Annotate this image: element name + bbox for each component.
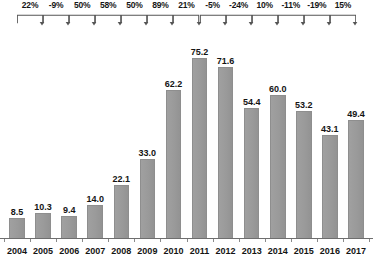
bar-rect xyxy=(218,67,234,238)
axis-tick xyxy=(4,239,5,242)
growth-label: 89% xyxy=(147,0,173,10)
axis-tick xyxy=(108,239,109,242)
axis-tick xyxy=(265,239,266,242)
axis-tick xyxy=(369,239,370,242)
bar-value-label: 60.0 xyxy=(263,84,293,94)
growth-bracket-2014-to-2015: -11% xyxy=(278,0,304,34)
growth-bracket-2013-to-2014: 10% xyxy=(252,0,278,34)
bracket-connector-icon xyxy=(95,14,121,25)
bar-2015[interactable]: 53.2 xyxy=(296,34,312,238)
year-label-2007: 2007 xyxy=(82,245,108,257)
growth-bracket-2008-to-2009: 50% xyxy=(121,0,147,34)
growth-bracket-2007-to-2008: 58% xyxy=(95,0,121,34)
bar-value-label: 22.1 xyxy=(107,174,137,184)
bar-value-label: 43.1 xyxy=(315,124,345,134)
bar-value-label: 54.4 xyxy=(237,97,267,107)
growth-bracket-2005-to-2006: -9% xyxy=(43,0,69,34)
bracket-connector-icon xyxy=(200,14,226,25)
bar-2017[interactable]: 49.4 xyxy=(348,34,364,238)
bracket-connector-icon xyxy=(330,14,356,25)
bar-value-label: 49.4 xyxy=(341,109,371,119)
year-label-2004: 2004 xyxy=(4,245,30,257)
bar-chart: 22%-9%50%58%50%89%21%-5%-24%10%-11%-19%1… xyxy=(0,0,373,267)
bar-2005[interactable]: 10.3 xyxy=(35,34,51,238)
bar-rect xyxy=(296,111,312,238)
bar-2012[interactable]: 71.6 xyxy=(218,34,234,238)
growth-bracket-2004-to-2005: 22% xyxy=(17,0,43,34)
growth-bracket-2016-to-2017: 15% xyxy=(330,0,356,34)
bar-2007[interactable]: 14.0 xyxy=(87,34,103,238)
bar-rect xyxy=(322,135,338,238)
year-label-2011: 2011 xyxy=(187,245,213,257)
bar-rect xyxy=(192,58,208,238)
year-label-2010: 2010 xyxy=(160,245,186,257)
bar-rect xyxy=(166,90,182,239)
bars-layer: 8.510.39.414.022.133.062.275.271.654.460… xyxy=(0,34,373,238)
axis-tick xyxy=(291,239,292,242)
growth-bracket-2012-to-2013: -24% xyxy=(226,0,252,34)
bar-rect xyxy=(35,213,51,238)
bar-2011[interactable]: 75.2 xyxy=(192,34,208,238)
growth-label: 50% xyxy=(69,0,95,10)
axis-tick xyxy=(134,239,135,242)
growth-bracket-2011-to-2012: -5% xyxy=(200,0,226,34)
bar-value-label: 71.6 xyxy=(211,56,241,66)
bar-2008[interactable]: 22.1 xyxy=(114,34,130,238)
bracket-connector-icon xyxy=(43,14,69,25)
growth-bracket-row: 22%-9%50%58%50%89%21%-5%-24%10%-11%-19%1… xyxy=(0,0,373,34)
year-label-2014: 2014 xyxy=(265,245,291,257)
bar-2004[interactable]: 8.5 xyxy=(9,34,25,238)
year-label-2009: 2009 xyxy=(134,245,160,257)
bar-value-label: 53.2 xyxy=(289,100,319,110)
bar-2009[interactable]: 33.0 xyxy=(140,34,156,238)
plot-area: 8.510.39.414.022.133.062.275.271.654.460… xyxy=(0,34,373,238)
growth-label: -19% xyxy=(304,0,330,10)
growth-bracket-2009-to-2010: 89% xyxy=(147,0,173,34)
year-label-2017: 2017 xyxy=(343,245,369,257)
growth-label: -11% xyxy=(278,0,304,10)
bar-value-label: 9.4 xyxy=(54,205,84,215)
growth-bracket-2006-to-2007: 50% xyxy=(69,0,95,34)
bar-2014[interactable]: 60.0 xyxy=(270,34,286,238)
growth-label: 50% xyxy=(121,0,147,10)
x-axis-ticks xyxy=(0,239,373,243)
growth-label: 58% xyxy=(95,0,121,10)
bar-rect xyxy=(61,216,77,238)
bracket-connector-icon xyxy=(17,14,43,25)
axis-tick xyxy=(239,239,240,242)
bar-value-label: 33.0 xyxy=(133,148,163,158)
axis-tick xyxy=(187,239,188,242)
growth-label: 22% xyxy=(17,0,43,10)
growth-label: 21% xyxy=(173,0,199,10)
growth-label: -5% xyxy=(200,0,226,10)
year-label-2006: 2006 xyxy=(56,245,82,257)
axis-tick xyxy=(56,239,57,242)
bar-value-label: 14.0 xyxy=(80,194,110,204)
bar-rect xyxy=(348,120,364,238)
bar-rect xyxy=(270,95,286,238)
bracket-connector-icon xyxy=(252,14,278,25)
bar-2006[interactable]: 9.4 xyxy=(61,34,77,238)
year-label-2005: 2005 xyxy=(30,245,56,257)
axis-tick xyxy=(82,239,83,242)
bracket-connector-icon xyxy=(69,14,95,25)
year-label-2008: 2008 xyxy=(108,245,134,257)
bracket-connector-icon xyxy=(121,14,147,25)
bracket-connector-icon xyxy=(226,14,252,25)
bar-2010[interactable]: 62.2 xyxy=(166,34,182,238)
year-label-2012: 2012 xyxy=(213,245,239,257)
bar-2016[interactable]: 43.1 xyxy=(322,34,338,238)
bracket-connector-icon xyxy=(147,14,173,25)
axis-tick xyxy=(317,239,318,242)
bar-rect xyxy=(244,108,260,238)
growth-label: 15% xyxy=(330,0,356,10)
growth-label: -24% xyxy=(226,0,252,10)
bar-rect xyxy=(9,218,25,238)
year-label-2013: 2013 xyxy=(239,245,265,257)
bar-rect xyxy=(114,185,130,238)
bracket-connector-icon xyxy=(278,14,304,25)
bar-2013[interactable]: 54.4 xyxy=(244,34,260,238)
bracket-connector-icon xyxy=(304,14,330,25)
bar-rect xyxy=(140,159,156,238)
x-axis-labels: 2004200520062007200820092010201120122013… xyxy=(0,245,373,261)
